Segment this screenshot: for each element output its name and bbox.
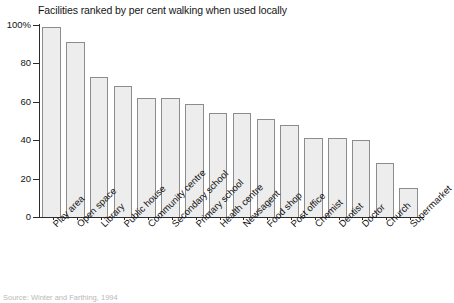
x-axis-label: Supermarket <box>408 184 454 230</box>
source-note: Source: Winter and Farthing, 1994 <box>3 293 118 302</box>
x-axis-label: Church <box>384 200 413 229</box>
